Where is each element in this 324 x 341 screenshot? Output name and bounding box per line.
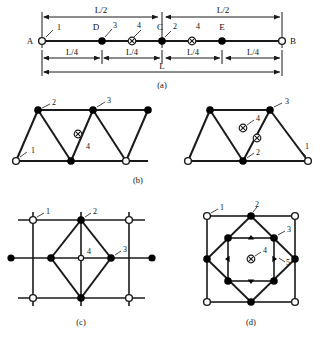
d-node-2: [247, 212, 255, 220]
truss2-node-2: [239, 157, 247, 165]
leader-b-2: [42, 104, 50, 108]
c-node-3: [107, 254, 115, 262]
d-node-3: [270, 234, 278, 242]
truss2-node-top-left: [206, 106, 214, 114]
leader-c-1: [37, 213, 44, 217]
node-marker-B: [279, 38, 286, 45]
panel-caption-a: (a): [157, 80, 167, 90]
node-marker-A: [39, 38, 46, 45]
truss2-diag-1: [188, 110, 210, 161]
dim-label-top-right: L/2: [217, 5, 230, 15]
truss2-diag-2: [210, 110, 243, 161]
panel-b-left: 1 2 3 4 (b): [13, 96, 152, 185]
truss-diag-4: [93, 110, 126, 161]
leader-c-2: [85, 213, 91, 217]
c-node-far-left: [7, 254, 14, 261]
c-node-br: [126, 295, 133, 302]
node-label-A: A: [27, 36, 34, 46]
c-node-bottom: [77, 294, 85, 302]
panel-a: L/2 L/2 A 1 D 3 4 C 2: [27, 5, 296, 90]
c-node-far-right: [148, 254, 155, 261]
node-label-E: E: [219, 22, 225, 32]
leader-b2-4: [247, 120, 254, 125]
diamond-edge-1: [51, 220, 81, 258]
d-label-1: 1: [220, 203, 224, 212]
truss-node-1: [13, 158, 20, 165]
truss2-label-2: 2: [256, 148, 260, 157]
leader-b2-2: [247, 153, 254, 158]
truss2-node-1: [305, 158, 312, 165]
c-node-bl: [30, 295, 37, 302]
c-node-left: [47, 254, 55, 262]
c-node-1: [30, 217, 37, 224]
dim-label-q1: L/4: [66, 47, 79, 57]
truss-node-2: [34, 106, 42, 114]
leader-d-1: [211, 209, 218, 213]
d-node-right-mid: [291, 255, 299, 263]
c-label-3: 3: [123, 245, 127, 254]
truss2-node-crossed-lower: [253, 134, 261, 142]
leader-node-1: [46, 30, 53, 37]
node-marker-crossed-left: [128, 37, 136, 45]
panel-caption-d: (d): [246, 317, 256, 327]
d-node-4: [247, 255, 255, 263]
truss-node-3: [89, 106, 97, 114]
figure-container: L/2 L/2 A 1 D 3 4 C 2: [0, 0, 324, 341]
truss2-diag-4: [270, 110, 308, 161]
truss-label-1: 1: [31, 146, 35, 155]
c-label-2: 2: [93, 207, 97, 216]
truss-diag-2: [38, 110, 71, 161]
truss-label-4: 4: [86, 142, 90, 151]
node-number-4a: 4: [137, 21, 141, 30]
leader-d-3: [278, 231, 285, 235]
truss2-node-3: [266, 106, 274, 114]
node-marker-crossed-right: [188, 37, 196, 45]
leader-node-2: [165, 31, 171, 37]
node-label-D: D: [93, 22, 100, 32]
d-node-bl: [204, 299, 211, 306]
truss2-node-4: [239, 124, 247, 132]
truss2-label-3: 3: [285, 97, 289, 106]
c-label-1: 1: [46, 207, 50, 216]
truss2-node-open-left: [185, 158, 192, 165]
dim-label-q4: L/4: [247, 47, 260, 57]
leader-node-3: [105, 29, 112, 37]
node-marker-D: [98, 37, 106, 45]
dim-label-q2: L/4: [126, 47, 139, 57]
d-label-5: 5: [286, 258, 290, 267]
truss-node-top-right: [144, 106, 152, 114]
node-number-1: 1: [57, 23, 61, 32]
d-inner-node-tl: [224, 234, 232, 242]
node-number-2: 2: [173, 22, 177, 31]
c-node-tr: [126, 217, 133, 224]
d-node-bottom-mid: [247, 298, 255, 306]
figure-svg: L/2 L/2 A 1 D 3 4 C 2: [0, 0, 324, 341]
leader-b-1: [20, 152, 27, 157]
d-node-br: [292, 299, 299, 306]
node-marker-C: [158, 37, 166, 45]
panel-d: 1 2 3 4 5 (d): [203, 200, 299, 327]
dim-label-L: L: [159, 61, 165, 71]
c-label-4: 4: [87, 247, 91, 256]
d-label-2: 2: [255, 200, 259, 209]
truss-label-2: 2: [52, 98, 56, 107]
node-number-3: 3: [113, 21, 117, 30]
panel-caption-c: (c): [76, 317, 86, 327]
truss-diag-5: [126, 110, 148, 161]
leader-b2-3: [274, 103, 282, 107]
diamond-edge-3: [81, 258, 111, 298]
truss-label-3: 3: [107, 96, 111, 105]
node-number-4b: 4: [196, 22, 200, 31]
c-node-4: [78, 255, 83, 260]
d-label-4: 4: [263, 246, 267, 255]
node-marker-E: [218, 37, 226, 45]
panel-caption-b: (b): [133, 175, 143, 185]
d-inner-node-br: [270, 277, 278, 285]
truss-node-mid-bottom: [67, 157, 75, 165]
truss2-label-1: 1: [305, 142, 309, 151]
leader-b-3: [97, 102, 105, 107]
leader-node-4a: [134, 30, 141, 37]
d-inner-node-bl: [224, 277, 232, 285]
truss2-label-4: 4: [256, 114, 260, 123]
truss-node-4: [74, 130, 82, 138]
